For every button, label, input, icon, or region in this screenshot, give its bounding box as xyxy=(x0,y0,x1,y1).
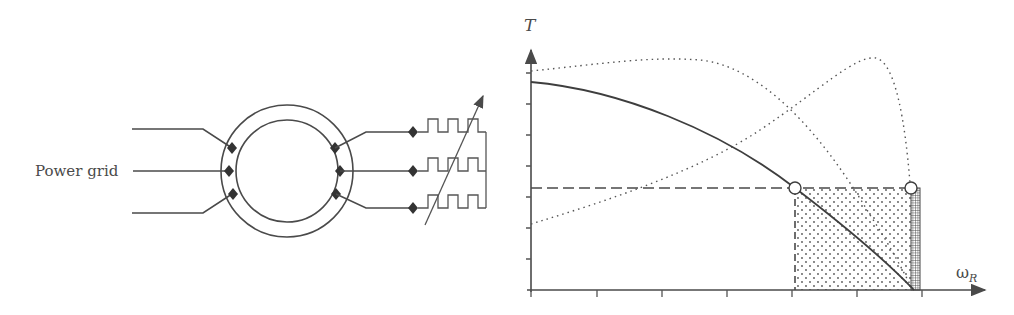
terminal-diamond-icon xyxy=(227,142,237,154)
operating-point-marker xyxy=(789,182,801,194)
torque-speed-chart: T ωR xyxy=(524,15,985,297)
figure-canvas: Power grid xyxy=(0,0,1014,315)
slip-loss-region-low xyxy=(911,188,920,290)
resistor-icon xyxy=(418,195,486,208)
power-grid-label: Power grid xyxy=(35,162,119,180)
slip-loss-region-high xyxy=(795,188,911,290)
terminal-diamond-icon xyxy=(408,126,418,138)
terminal-diamond-icon xyxy=(408,165,418,177)
grid-connection-lines xyxy=(132,129,232,213)
machine-diagram: Power grid xyxy=(35,96,486,237)
stator-circle-icon xyxy=(221,105,353,237)
rotor-circle-icon xyxy=(236,120,338,222)
x-axis-label: ωR xyxy=(956,263,977,285)
resistor-terminals xyxy=(408,126,418,214)
terminal-diamond-icon xyxy=(224,165,234,177)
y-axis-label: T xyxy=(524,15,537,35)
resistor-icon xyxy=(418,119,486,132)
variable-resistance-arrow-icon xyxy=(425,96,483,225)
operating-point-marker xyxy=(905,182,917,194)
terminal-diamond-icon xyxy=(228,188,238,200)
terminal-diamond-icon xyxy=(408,202,418,214)
x-ticks xyxy=(531,290,922,297)
